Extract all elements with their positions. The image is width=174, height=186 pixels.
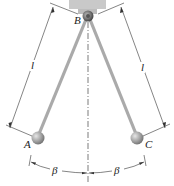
label-b: B bbox=[74, 15, 81, 26]
rod-left bbox=[39, 17, 87, 134]
bob-a bbox=[32, 132, 45, 145]
angle-tick-left bbox=[29, 155, 31, 166]
angle-tick-right bbox=[144, 155, 146, 166]
label-length-left: l bbox=[30, 60, 35, 71]
label-c: C bbox=[145, 139, 152, 150]
label-a: A bbox=[24, 139, 31, 150]
pendulum-diagram bbox=[0, 0, 174, 186]
label-length-right: l bbox=[140, 62, 145, 73]
label-beta-left: β bbox=[52, 165, 57, 176]
label-beta-right: β bbox=[114, 165, 119, 176]
extension-line-right-bottom bbox=[143, 124, 170, 136]
fixed-support bbox=[69, 0, 106, 9]
rod-right bbox=[89, 17, 136, 134]
bob-c bbox=[131, 132, 144, 145]
